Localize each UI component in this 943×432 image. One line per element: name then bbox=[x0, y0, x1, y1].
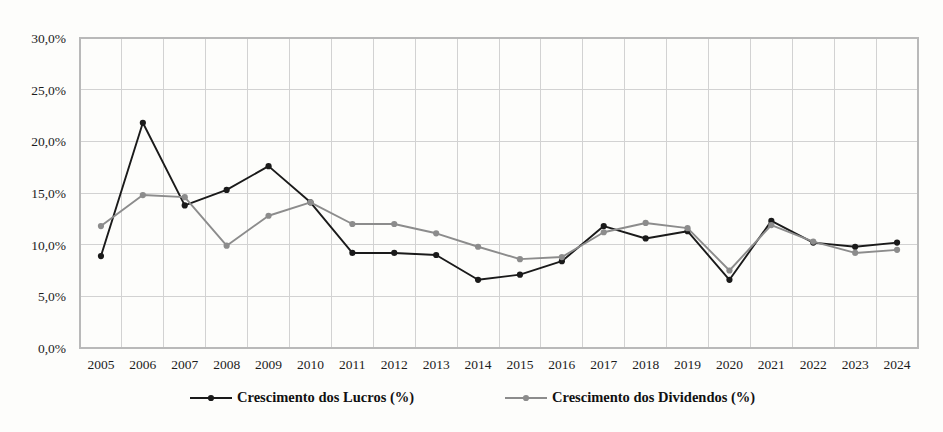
chart-legend: Crescimento dos Lucros (%)Crescimento do… bbox=[190, 389, 755, 406]
data-point-marker bbox=[517, 256, 523, 262]
chart-canvas: 0,0%5,0%10,0%15,0%20,0%25,0%30,0% 200520… bbox=[0, 0, 943, 432]
x-axis-tick-label: 2009 bbox=[255, 357, 282, 372]
data-point-marker bbox=[894, 240, 900, 246]
y-axis-tick-labels: 0,0%5,0%10,0%15,0%20,0%25,0%30,0% bbox=[31, 31, 66, 356]
x-axis-tick-label: 2012 bbox=[381, 357, 408, 372]
x-axis-tick-label: 2021 bbox=[758, 357, 785, 372]
data-point-marker bbox=[768, 222, 774, 228]
data-point-marker bbox=[475, 244, 481, 250]
x-axis-tick-label: 2019 bbox=[674, 357, 701, 372]
x-axis-tick-label: 2022 bbox=[800, 357, 827, 372]
x-axis-tick-label: 2015 bbox=[506, 357, 533, 372]
x-axis-tick-label: 2005 bbox=[87, 357, 114, 372]
x-axis-tick-label: 2006 bbox=[129, 357, 156, 372]
data-point-marker bbox=[391, 250, 397, 256]
data-point-marker bbox=[140, 192, 146, 198]
x-axis-tick-label: 2007 bbox=[171, 357, 198, 372]
x-axis-tick-label: 2013 bbox=[423, 357, 450, 372]
data-point-marker bbox=[726, 277, 732, 283]
data-point-marker bbox=[182, 194, 188, 200]
data-point-marker bbox=[559, 254, 565, 260]
data-point-marker bbox=[349, 250, 355, 256]
x-axis-tick-label: 2008 bbox=[213, 357, 240, 372]
line-chart: 0,0%5,0%10,0%15,0%20,0%25,0%30,0% 200520… bbox=[0, 0, 943, 432]
x-axis-tick-label: 2010 bbox=[297, 357, 324, 372]
legend-entry[interactable]: Crescimento dos Lucros (%) bbox=[190, 389, 414, 406]
data-point-marker bbox=[517, 272, 523, 278]
data-point-marker bbox=[433, 230, 439, 236]
data-point-marker bbox=[643, 235, 649, 241]
legend-marker-icon bbox=[208, 395, 214, 401]
data-point-marker bbox=[433, 252, 439, 258]
legend-label: Crescimento dos Dividendos (%) bbox=[552, 389, 755, 406]
data-point-marker bbox=[643, 220, 649, 226]
x-axis-tick-label: 2020 bbox=[716, 357, 743, 372]
y-axis-tick-label: 25,0% bbox=[31, 83, 66, 98]
data-point-marker bbox=[475, 277, 481, 283]
data-point-marker bbox=[265, 213, 271, 219]
legend-marker-icon bbox=[523, 395, 529, 401]
data-point-marker bbox=[601, 229, 607, 235]
y-axis-tick-label: 5,0% bbox=[38, 289, 66, 304]
y-axis-tick-label: 30,0% bbox=[31, 31, 66, 46]
data-point-marker bbox=[224, 243, 230, 249]
data-point-marker bbox=[307, 199, 313, 205]
y-axis-tick-label: 0,0% bbox=[38, 341, 66, 356]
data-point-marker bbox=[224, 187, 230, 193]
data-point-marker bbox=[98, 253, 104, 259]
data-point-marker bbox=[852, 244, 858, 250]
data-point-marker bbox=[894, 247, 900, 253]
data-point-marker bbox=[182, 202, 188, 208]
x-axis-tick-label: 2011 bbox=[339, 357, 366, 372]
y-axis-tick-label: 10,0% bbox=[31, 238, 66, 253]
data-point-marker bbox=[98, 223, 104, 229]
y-axis-tick-label: 20,0% bbox=[31, 134, 66, 149]
data-point-marker bbox=[726, 267, 732, 273]
data-point-marker bbox=[810, 238, 816, 244]
x-axis-tick-label: 2014 bbox=[465, 357, 492, 372]
data-point-marker bbox=[684, 225, 690, 231]
legend-entry[interactable]: Crescimento dos Dividendos (%) bbox=[505, 389, 755, 406]
legend-label: Crescimento dos Lucros (%) bbox=[237, 389, 414, 406]
data-point-marker bbox=[391, 221, 397, 227]
data-point-marker bbox=[140, 120, 146, 126]
y-axis-tick-label: 15,0% bbox=[31, 186, 66, 201]
data-point-marker bbox=[601, 223, 607, 229]
gridlines bbox=[80, 38, 918, 348]
x-axis-tick-label: 2023 bbox=[842, 357, 869, 372]
x-axis-tick-label: 2017 bbox=[590, 357, 617, 372]
x-axis-tick-label: 2018 bbox=[632, 357, 659, 372]
data-point-marker bbox=[265, 163, 271, 169]
data-point-marker bbox=[852, 250, 858, 256]
data-point-marker bbox=[349, 221, 355, 227]
x-axis-tick-label: 2016 bbox=[548, 357, 575, 372]
x-axis-tick-labels: 2005200620072008200920102011201220132014… bbox=[87, 357, 910, 372]
x-axis-tick-label: 2024 bbox=[884, 357, 911, 372]
